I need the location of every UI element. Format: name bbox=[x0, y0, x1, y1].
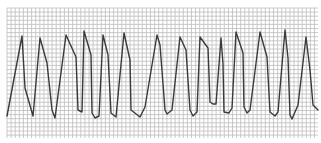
ecg-strip bbox=[0, 0, 321, 143]
